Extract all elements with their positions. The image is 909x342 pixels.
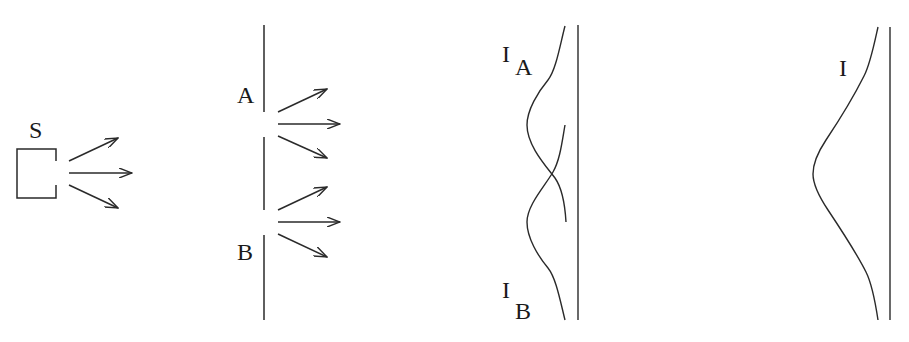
arrow-icon (69, 185, 118, 208)
arrow-icon (278, 187, 327, 210)
curve-ib-label-sub: B (515, 298, 531, 324)
slit-b-label: B (237, 239, 253, 265)
source-label: S (29, 117, 42, 143)
slit-a-arrows (278, 89, 340, 158)
slit-a-label: A (237, 82, 255, 108)
individual-screen (527, 25, 578, 320)
curve-ia-label-sub: A (515, 54, 533, 80)
source: S (17, 117, 132, 208)
arrow-icon (278, 234, 327, 257)
arrow-icon (278, 136, 327, 158)
curve-combined-label: I (839, 55, 847, 81)
arrow-icon (278, 89, 327, 112)
curve-ia-label-main: I (502, 41, 510, 67)
curve-ia (527, 26, 566, 222)
source-arrows (69, 138, 132, 208)
curve-ib-label-main: I (502, 277, 510, 303)
slit-b-arrows (278, 187, 340, 257)
arrow-icon (69, 138, 118, 161)
curve-ib (527, 125, 565, 320)
two-slit-diagram: S A B I A I B I (0, 0, 909, 342)
source-box (17, 149, 56, 198)
combined-screen (813, 27, 890, 320)
